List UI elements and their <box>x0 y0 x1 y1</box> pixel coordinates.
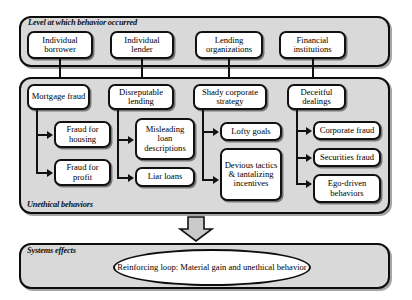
unethical-child-fraud-for-profit[interactable]: Fraud for profit <box>54 159 111 186</box>
level-box-individual-lender-label: Individual lender <box>114 36 170 54</box>
systems-reinforcing-loop-ellipse[interactable]: Reinforcing loop: Material gain and unet… <box>113 249 311 286</box>
level-box-lending-organizations-label: Lending organizations <box>199 36 259 54</box>
level-box-financial-institutions[interactable]: Financial institutions <box>279 31 346 59</box>
arrowhead-col1-child1 <box>47 131 53 139</box>
level-box-individual-borrower-label: Individual borrower <box>31 36 89 54</box>
level-box-financial-institutions-label: Financial institutions <box>283 36 342 54</box>
unethical-child-devious-tactics-label: Devious tactics & tantalizing incentives <box>224 161 278 188</box>
arrowhead-col2-child2 <box>128 174 134 182</box>
col3-trunk <box>202 110 204 180</box>
col4-trunk <box>296 110 298 184</box>
unethical-head-mortgage-fraud-label: Mortgage fraud <box>31 92 86 101</box>
level-box-lending-organizations[interactable]: Lending organizations <box>195 31 263 59</box>
unethical-child-misleading-loan-descriptions[interactable]: Misleading loan descriptions <box>135 118 195 160</box>
unethical-head-disreputable-lending-label: Disreputable lending <box>112 88 170 106</box>
unethical-child-securities-fraud-label: Securities fraud <box>317 153 377 162</box>
arrowhead-col2-child1 <box>128 136 134 144</box>
arrowhead-col3-child2 <box>213 176 219 184</box>
col2-trunk <box>117 110 119 178</box>
arrowhead-col1-child2 <box>47 169 53 177</box>
unethical-child-corporate-fraud[interactable]: Corporate fraud <box>313 121 381 140</box>
arrowhead-col3-child1 <box>213 128 219 136</box>
unethical-child-liar-loans[interactable]: Liar loans <box>135 167 195 187</box>
unethical-child-fraud-for-housing-label: Fraud for housing <box>58 125 107 143</box>
unethical-child-securities-fraud[interactable]: Securities fraud <box>313 148 381 167</box>
level-box-individual-lender[interactable]: Individual lender <box>110 31 174 59</box>
unethical-head-deceitful-dealings-label: Deceitful dealings <box>291 88 342 106</box>
arrowhead-col4-child3 <box>306 180 312 188</box>
arrowhead-col4-child1 <box>306 127 312 135</box>
unethical-head-shady-corporate-strategy[interactable]: Shady corporate strategy <box>193 84 267 110</box>
systems-reinforcing-loop-label: Reinforcing loop: Material gain and unet… <box>117 263 306 273</box>
arrowhead-col4-child2 <box>306 154 312 162</box>
col1-trunk <box>36 110 38 173</box>
panel-level-label: Level at which behavior occurred <box>28 18 137 27</box>
unethical-child-fraud-for-housing[interactable]: Fraud for housing <box>54 121 111 148</box>
unethical-child-ego-driven-behaviors-label: Ego-driven behaviors <box>317 179 377 197</box>
panel-systems-label: Systems effects <box>27 246 76 255</box>
unethical-head-disreputable-lending[interactable]: Disreputable lending <box>108 84 174 110</box>
unethical-child-misleading-loan-descriptions-label: Misleading loan descriptions <box>139 125 191 152</box>
unethical-child-corporate-fraud-label: Corporate fraud <box>317 126 377 135</box>
panel-unethical-label: Unethical behaviors <box>27 200 93 209</box>
unethical-child-fraud-for-profit-label: Fraud for profit <box>58 163 107 181</box>
unethical-child-lofty-goals-label: Lofty goals <box>224 127 278 136</box>
unethical-child-devious-tactics[interactable]: Devious tactics & tantalizing incentives <box>220 148 282 201</box>
unethical-child-ego-driven-behaviors[interactable]: Ego-driven behaviors <box>313 174 381 203</box>
diagram-canvas: Level at which behavior occurred Individ… <box>0 0 412 300</box>
unethical-head-mortgage-fraud[interactable]: Mortgage fraud <box>27 84 90 110</box>
unethical-child-lofty-goals[interactable]: Lofty goals <box>220 122 282 141</box>
level-box-individual-borrower[interactable]: Individual borrower <box>27 31 93 59</box>
unethical-child-liar-loans-label: Liar loans <box>139 172 191 181</box>
unethical-head-shady-corporate-strategy-label: Shady corporate strategy <box>197 88 263 106</box>
unethical-head-deceitful-dealings[interactable]: Deceitful dealings <box>287 84 346 110</box>
block-arrow-unethical-to-systems <box>178 216 214 243</box>
